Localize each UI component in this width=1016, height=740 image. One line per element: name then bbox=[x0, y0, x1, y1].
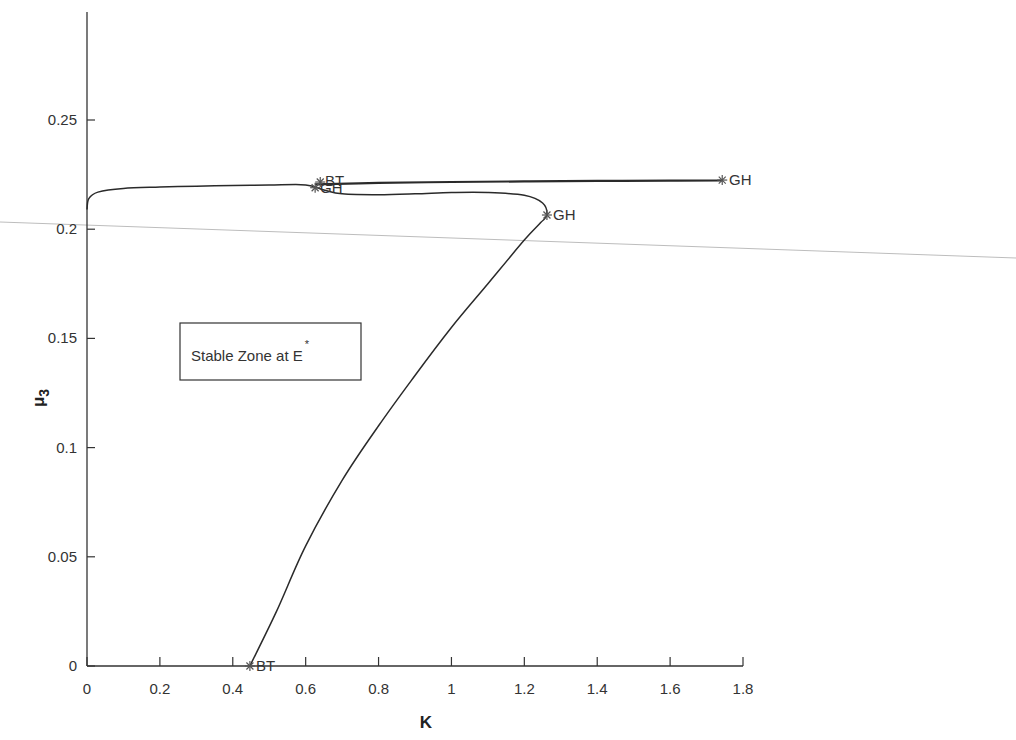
bifurcation-chart: 00.20.40.60.811.21.41.61.8 00.050.10.150… bbox=[0, 0, 1016, 740]
x-axis-title: K bbox=[420, 713, 433, 732]
y-axis-ticks: 00.050.10.150.20.25 bbox=[48, 111, 95, 674]
x-tick-label: 0.8 bbox=[368, 680, 389, 697]
data-series bbox=[87, 181, 722, 667]
scan-artifact-line bbox=[0, 222, 1016, 258]
asterisk-marker-icon bbox=[310, 183, 320, 193]
point-label-bt-low: BT bbox=[256, 657, 275, 674]
x-tick-label: 1 bbox=[447, 680, 455, 697]
point-label-gh-right: GH bbox=[729, 171, 752, 188]
y-axis-title: μ3 bbox=[29, 389, 52, 407]
y-tick-label: 0.15 bbox=[48, 329, 77, 346]
annotation-text: Stable Zone at E bbox=[191, 347, 303, 364]
y-axis-title-main: μ bbox=[29, 397, 48, 407]
y-axis-title-sub: 3 bbox=[36, 389, 52, 397]
series-line-0 bbox=[87, 185, 547, 666]
stable-zone-annotation: Stable Zone at E* bbox=[180, 323, 361, 380]
asterisk-marker-icon bbox=[542, 210, 552, 220]
point-label-gh-up: GH bbox=[320, 179, 343, 196]
y-tick-label: 0 bbox=[69, 657, 77, 674]
y-tick-label: 0.2 bbox=[56, 220, 77, 237]
x-tick-label: 0.2 bbox=[149, 680, 170, 697]
x-tick-label: 0 bbox=[83, 680, 91, 697]
x-tick-label: 0.4 bbox=[222, 680, 243, 697]
asterisk-marker-icon bbox=[245, 661, 255, 671]
special-point-markers bbox=[245, 175, 727, 671]
svg-text:μ3: μ3 bbox=[29, 389, 52, 407]
x-tick-label: 1.6 bbox=[660, 680, 681, 697]
annotation-superscript: * bbox=[305, 338, 310, 350]
point-label-gh-mid: GH bbox=[553, 206, 576, 223]
y-tick-label: 0.05 bbox=[48, 548, 77, 565]
x-tick-label: 1.4 bbox=[587, 680, 608, 697]
y-tick-label: 0.25 bbox=[48, 111, 77, 128]
x-tick-label: 1.8 bbox=[733, 680, 754, 697]
x-tick-label: 0.6 bbox=[295, 680, 316, 697]
asterisk-marker-icon bbox=[717, 175, 727, 185]
x-tick-label: 1.2 bbox=[514, 680, 535, 697]
x-axis-ticks: 00.20.40.60.811.21.41.61.8 bbox=[83, 657, 754, 697]
y-tick-label: 0.1 bbox=[56, 439, 77, 456]
series-line-1 bbox=[315, 181, 722, 185]
